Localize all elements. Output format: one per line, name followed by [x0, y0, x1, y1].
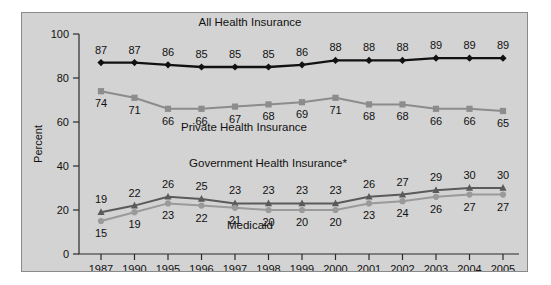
chart-series: 87878685858586888888898989 [95, 39, 509, 70]
x-tick-label: 2000 [323, 263, 347, 271]
data-point-label: 30 [497, 169, 509, 181]
data-point-marker [298, 61, 305, 68]
x-tick-label: 2004 [457, 263, 481, 271]
data-point-label: 89 [463, 39, 475, 51]
series-annotation-label: All Health Insurance [199, 16, 302, 28]
data-point-label: 87 [128, 44, 140, 56]
data-point-label: 19 [95, 193, 107, 205]
series-annotation-label: Private Health Insurance [181, 121, 307, 133]
data-point-label: 23 [363, 209, 375, 221]
x-tick-label: 1996 [189, 263, 213, 271]
data-point-label: 25 [195, 180, 207, 192]
data-point-marker [198, 106, 204, 112]
data-point-label: 85 [262, 48, 274, 60]
data-point-marker [165, 106, 171, 112]
data-point-marker [265, 101, 271, 107]
x-tick-label: 2003 [424, 263, 448, 271]
data-point-marker [299, 99, 305, 105]
data-point-marker [131, 209, 137, 215]
data-point-label: 26 [363, 178, 375, 190]
data-point-label: 71 [329, 104, 341, 116]
data-point-label: 68 [363, 110, 375, 122]
data-point-label: 23 [229, 184, 241, 196]
data-point-label: 26 [162, 178, 174, 190]
x-tick-label: 1987 [89, 263, 113, 271]
data-point-label: 24 [396, 207, 408, 219]
data-point-label: 15 [95, 227, 107, 239]
data-point-marker [433, 194, 439, 200]
data-point-label: 86 [162, 46, 174, 58]
data-point-label: 22 [195, 212, 207, 224]
x-tick-label: 2005 [491, 263, 515, 271]
data-point-label: 27 [497, 201, 509, 213]
x-tick-label: 2002 [390, 263, 414, 271]
data-point-marker [466, 106, 472, 112]
y-tick-label: 80 [57, 72, 69, 84]
data-point-marker [98, 88, 104, 94]
data-point-label: 29 [430, 171, 442, 183]
data-point-marker [299, 207, 305, 213]
data-point-marker [198, 203, 204, 209]
data-point-marker [500, 192, 506, 198]
data-point-marker [165, 200, 171, 206]
data-point-marker [399, 57, 406, 64]
data-point-label: 20 [296, 216, 308, 228]
data-point-label: 19 [128, 218, 140, 230]
data-point-marker [265, 63, 272, 70]
data-point-marker [98, 218, 104, 224]
data-point-marker [365, 57, 372, 64]
line-chart-plot: 020406080100Percent198719901995199619971… [22, 13, 527, 271]
data-point-label: 65 [497, 117, 509, 129]
data-point-marker [231, 63, 238, 70]
data-point-label: 27 [463, 201, 475, 213]
data-point-marker [131, 59, 138, 66]
y-axis-title: Percent [32, 125, 44, 163]
data-point-marker [366, 101, 372, 107]
data-point-label: 22 [128, 187, 140, 199]
x-tick-label: 1999 [290, 263, 314, 271]
data-point-label: 88 [396, 41, 408, 53]
data-point-label: 89 [497, 39, 509, 51]
data-point-label: 71 [128, 104, 140, 116]
data-point-label: 68 [396, 110, 408, 122]
data-point-marker [332, 57, 339, 64]
series-annotation-label: Medicaid [227, 219, 273, 231]
data-point-label: 86 [296, 46, 308, 58]
data-point-label: 66 [162, 115, 174, 127]
data-point-label: 27 [396, 176, 408, 188]
data-point-label: 26 [430, 203, 442, 215]
chart-figure: 020406080100Percent198719901995199619971… [21, 12, 528, 272]
data-point-label: 23 [262, 184, 274, 196]
data-point-label: 88 [329, 41, 341, 53]
data-point-label: 85 [229, 48, 241, 60]
data-point-marker [432, 55, 439, 62]
x-tick-label: 1995 [156, 263, 180, 271]
data-point-label: 85 [195, 48, 207, 60]
data-point-marker [366, 200, 372, 206]
data-point-label: 30 [463, 169, 475, 181]
data-point-marker [332, 95, 338, 101]
data-point-marker [466, 192, 472, 198]
y-tick-label: 100 [51, 28, 69, 40]
y-tick-label: 40 [57, 160, 69, 172]
data-point-label: 87 [95, 44, 107, 56]
x-tick-label: 1998 [256, 263, 280, 271]
data-point-marker [232, 205, 238, 211]
series-annotation-label: Government Health Insurance* [189, 157, 347, 169]
chart-series: 15192322212020202324262727 [95, 192, 509, 240]
data-point-marker [131, 95, 137, 101]
y-tick-label: 0 [63, 248, 69, 260]
data-point-label: 20 [329, 216, 341, 228]
data-point-marker [500, 108, 506, 114]
x-tick-label: 1990 [122, 263, 146, 271]
data-point-marker [97, 59, 104, 66]
data-point-label: 74 [95, 97, 107, 109]
data-point-marker [164, 61, 171, 68]
data-point-marker [499, 55, 506, 62]
data-point-marker [399, 101, 405, 107]
y-tick-label: 60 [57, 116, 69, 128]
data-point-marker [232, 104, 238, 110]
data-point-label: 88 [363, 41, 375, 53]
data-point-label: 66 [463, 115, 475, 127]
data-point-label: 66 [430, 115, 442, 127]
